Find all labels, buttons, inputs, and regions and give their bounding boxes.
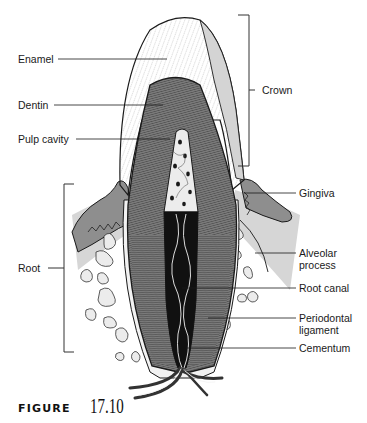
figure-caption-number: 17.10 xyxy=(90,395,124,418)
label-dentin: Dentin xyxy=(18,99,48,111)
label-cementum: Cementum xyxy=(299,342,350,354)
label-pulp-cavity: Pulp cavity xyxy=(18,133,69,145)
label-root-canal: Root canal xyxy=(299,282,349,294)
label-alveolar-process-line2: process xyxy=(299,259,336,271)
label-alveolar-process-line1: Alveolar xyxy=(299,247,337,259)
label-enamel: Enamel xyxy=(18,53,54,65)
crown-bracket xyxy=(238,15,255,166)
label-root: Root xyxy=(18,262,40,274)
label-periodontal-ligament-line1: Periodontal xyxy=(299,312,352,324)
label-periodontal-ligament-line2: ligament xyxy=(299,324,339,336)
tooth-anatomy-diagram xyxy=(0,0,367,423)
label-gingiva: Gingiva xyxy=(299,187,335,199)
figure-caption-word: FIGURE xyxy=(18,402,71,415)
root-bracket xyxy=(48,184,74,352)
label-crown: Crown xyxy=(262,84,292,96)
